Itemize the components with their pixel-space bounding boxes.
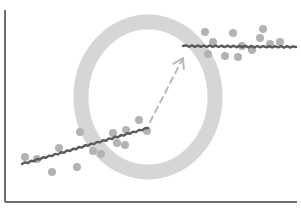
data-point xyxy=(121,141,129,149)
data-point xyxy=(276,38,284,46)
data-point xyxy=(221,52,229,60)
arrow-shaft xyxy=(150,58,183,122)
data-point xyxy=(97,150,105,158)
data-point xyxy=(73,163,81,171)
ring-ellipse xyxy=(81,22,215,172)
trend-lines xyxy=(22,45,296,164)
step-change-diagram xyxy=(0,0,301,209)
highlight-ring xyxy=(81,22,215,172)
data-point xyxy=(89,147,97,155)
jump-arrow-icon xyxy=(150,58,184,122)
data-point xyxy=(259,25,267,33)
data-point xyxy=(234,53,242,61)
data-point xyxy=(48,168,56,176)
data-point xyxy=(201,28,209,36)
data-point xyxy=(113,139,121,147)
data-point xyxy=(21,153,29,161)
data-point xyxy=(229,29,237,37)
data-point xyxy=(55,144,63,152)
data-point xyxy=(204,50,212,58)
data-point xyxy=(135,116,143,124)
data-point xyxy=(256,34,264,42)
data-point xyxy=(76,128,84,136)
